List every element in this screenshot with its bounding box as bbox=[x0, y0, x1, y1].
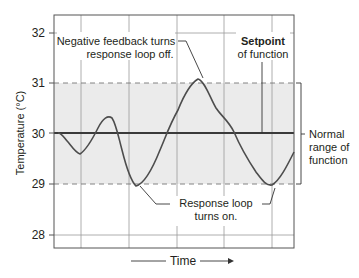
negative-feedback-annotation: Negative feedback turns response loop of… bbox=[57, 32, 203, 78]
y-ticks bbox=[49, 33, 54, 235]
y-axis-label: Temperature (°C) bbox=[14, 91, 26, 175]
response-line2: turns on. bbox=[195, 210, 238, 222]
ytick-28: 28 bbox=[32, 228, 46, 242]
response-line1: Response loop bbox=[179, 197, 252, 209]
ytick-29: 29 bbox=[32, 177, 46, 191]
normal-line3: function bbox=[309, 154, 348, 166]
ytick-32: 32 bbox=[32, 26, 46, 40]
setpoint-bold-label: Setpoint bbox=[241, 35, 285, 47]
x-axis-label-group: Time bbox=[131, 254, 234, 268]
response-loop-annotation: Response loop turns on. bbox=[140, 186, 275, 226]
x-axis-label: Time bbox=[170, 254, 197, 268]
normal-line2: range of bbox=[309, 141, 350, 153]
arrow-right-icon bbox=[228, 258, 234, 264]
normal-line1: Normal bbox=[309, 128, 344, 140]
y-tick-labels: 32 31 30 29 28 bbox=[32, 26, 46, 242]
ytick-31: 31 bbox=[32, 76, 46, 90]
homeostasis-chart: 32 31 30 29 28 Temperature (°C) Time Neg… bbox=[0, 0, 359, 278]
ytick-30: 30 bbox=[32, 127, 46, 141]
neg-feedback-line2: response loop off. bbox=[86, 48, 173, 60]
normal-range-annotation: Normal range of function bbox=[296, 83, 350, 184]
neg-feedback-line1: Negative feedback turns bbox=[57, 35, 176, 47]
setpoint-rest-label: of function bbox=[238, 48, 289, 60]
